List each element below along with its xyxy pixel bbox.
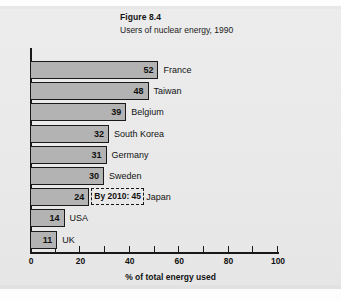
- bar-value-uk: 11: [27, 231, 52, 249]
- x-axis-title: % of total energy used: [0, 272, 341, 282]
- bar-label-usa: USA: [70, 209, 89, 227]
- bar-row: 39Belgium: [30, 103, 330, 121]
- bar-row: 31Germany: [30, 146, 330, 164]
- bar-value-sweden: 30: [74, 167, 99, 185]
- bar-row: 32South Korea: [30, 125, 330, 143]
- bar-label-france: France: [163, 61, 191, 79]
- x-tick-label-0: 0: [29, 256, 34, 266]
- annotation-japan-forecast: By 2010: 45: [91, 188, 144, 205]
- bar-value-taiwan: 48: [119, 82, 144, 100]
- bar-value-france: 52: [128, 61, 153, 79]
- bar-label-sweden: Sweden: [109, 167, 142, 185]
- x-axis-line: [30, 252, 279, 254]
- chart-plot-area: 020406080100 52France48Taiwan39Belgium32…: [0, 0, 341, 301]
- figure-page: Figure 8.4 Users of nuclear energy, 1990…: [0, 0, 341, 301]
- x-tick-label-40: 40: [125, 256, 134, 266]
- bar-value-usa: 14: [35, 209, 60, 227]
- bar-value-japan: 24: [59, 188, 84, 206]
- bar-row: 52France: [30, 61, 330, 79]
- x-tick-label-20: 20: [76, 256, 85, 266]
- bar-row: 48Taiwan: [30, 82, 330, 100]
- bar-row: 11UK: [30, 231, 330, 249]
- bar-value-south-korea: 32: [79, 125, 104, 143]
- bar-label-uk: UK: [62, 231, 75, 249]
- bar-row: 14USA: [30, 209, 330, 227]
- bar-label-taiwan: Taiwan: [154, 82, 182, 100]
- bar-label-germany: Germany: [112, 146, 149, 164]
- bar-value-germany: 31: [77, 146, 102, 164]
- bar-value-belgium: 39: [96, 103, 121, 121]
- x-tick-label-80: 80: [224, 256, 233, 266]
- bar-row: 24By 2010: 45Japan: [30, 188, 330, 206]
- bar-label-belgium: Belgium: [131, 103, 164, 121]
- x-tick-label-60: 60: [174, 256, 183, 266]
- x-tick-label-100: 100: [271, 256, 285, 266]
- bar-label-south-korea: South Korea: [114, 125, 164, 143]
- bar-label-japan: Japan: [146, 188, 171, 206]
- bar-row: 30Sweden: [30, 167, 330, 185]
